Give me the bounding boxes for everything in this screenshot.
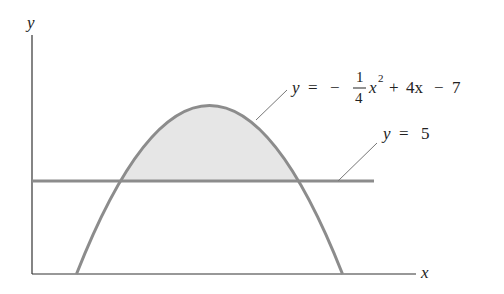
area-between-curves-diagram: y x y = − 1 4 x 2 + 4x − 7 y = 5 <box>0 0 504 294</box>
parabola-label-leader <box>256 90 287 120</box>
eq-frac-denominator: 4 <box>355 90 363 106</box>
y-axis-label: y <box>25 13 35 32</box>
line-eq-y: y <box>381 124 391 143</box>
eq-y: y <box>290 78 300 97</box>
eq-frac-numerator: 1 <box>356 69 364 85</box>
eq-exponent: 2 <box>378 72 384 84</box>
line-label-leader <box>338 143 377 181</box>
x-axis-label: x <box>420 263 429 282</box>
line-eq-equals: = <box>399 124 409 143</box>
eq-minus: − <box>330 78 340 97</box>
eq-equals: = <box>308 78 318 97</box>
line-eq-value: 5 <box>421 124 430 143</box>
eq-7: 7 <box>452 78 461 97</box>
eq-4x: 4x <box>406 78 424 97</box>
parabola-equation-label: y = − 1 4 x 2 + 4x − 7 <box>290 69 461 106</box>
eq-x: x <box>368 78 377 97</box>
line-equation-label: y = 5 <box>381 124 430 143</box>
eq-plus: + <box>389 78 399 97</box>
eq-minus-2: − <box>434 78 444 97</box>
